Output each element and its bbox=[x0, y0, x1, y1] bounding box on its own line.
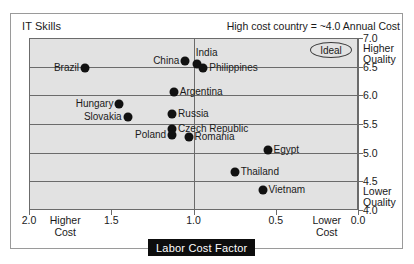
data-point bbox=[168, 109, 177, 118]
data-point bbox=[258, 185, 267, 194]
data-point bbox=[184, 133, 193, 142]
x-tick-label: 0.5 bbox=[268, 214, 283, 226]
y-tick-label: 5.5 bbox=[363, 118, 378, 130]
data-point bbox=[263, 145, 272, 154]
data-point bbox=[230, 167, 239, 176]
data-point-label: Vietnam bbox=[269, 185, 306, 195]
y-note-bottom-line2: Quality bbox=[363, 197, 396, 208]
chart-screenshot: IT Skills High cost country = ~4.0 Annua… bbox=[0, 0, 414, 264]
annual-cost-note: High cost country = ~4.0 Annual Cost bbox=[227, 20, 400, 32]
data-point-label: Hungary bbox=[76, 99, 114, 109]
data-point-label: Russia bbox=[178, 109, 209, 119]
data-point bbox=[115, 99, 124, 108]
data-point-label: Brazil bbox=[54, 63, 79, 73]
data-point-label: Slovakia bbox=[84, 112, 122, 122]
data-point bbox=[123, 113, 132, 122]
ideal-badge-label: Ideal bbox=[320, 45, 342, 56]
data-point-label: India bbox=[196, 48, 218, 58]
x-axis-note-right-line1: Lower bbox=[312, 214, 341, 226]
data-point-label: China bbox=[153, 56, 179, 66]
y-axis-note-top: HigherQuality bbox=[363, 43, 396, 65]
x-axis-note-right-line2: Cost bbox=[312, 226, 341, 238]
data-point-label: Romania bbox=[195, 132, 235, 142]
chart-title: IT Skills bbox=[22, 20, 61, 32]
data-point-label: Philippines bbox=[209, 63, 257, 73]
y-note-top-line2: Quality bbox=[363, 54, 396, 65]
x-tick-label: 1.5 bbox=[104, 214, 119, 226]
x-axis-note-left: HigherCost bbox=[50, 214, 81, 238]
x-tick-label: 0.0 bbox=[351, 214, 366, 226]
x-tick-label: 1.0 bbox=[186, 214, 201, 226]
y-tick-label: 6.0 bbox=[363, 89, 378, 101]
x-axis-title: Labor Cost Factor bbox=[148, 239, 255, 256]
data-point bbox=[168, 131, 177, 140]
data-point-label: Thailand bbox=[241, 167, 279, 177]
data-point-label: Poland bbox=[135, 130, 166, 140]
x-axis-note-left-line2: Cost bbox=[50, 226, 81, 238]
x-tick-label: 2.0 bbox=[22, 214, 37, 226]
data-point-label: Egypt bbox=[274, 145, 300, 155]
x-axis-note-right: LowerCost bbox=[312, 214, 341, 238]
data-point-label: Argentina bbox=[180, 87, 223, 97]
data-point bbox=[80, 63, 89, 72]
y-axis-note-bottom: LowerQuality bbox=[363, 186, 396, 208]
data-point bbox=[181, 56, 190, 65]
y-tick-label: 5.0 bbox=[363, 147, 378, 159]
x-axis-note-left-line1: Higher bbox=[50, 214, 81, 226]
ideal-badge: Ideal bbox=[310, 42, 352, 58]
data-point bbox=[169, 87, 178, 96]
data-point bbox=[199, 63, 208, 72]
